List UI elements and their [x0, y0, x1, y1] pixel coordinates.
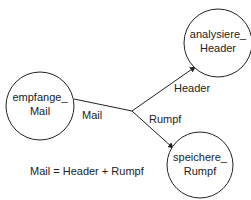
annotation-text: Mail = Header + Rumpf — [30, 165, 145, 177]
node-analysiere-header[interactable]: analysiere_ Header — [184, 9, 251, 77]
data-flow-diagram: Mail Header Rumpf empfange_ Mail analysi… — [0, 0, 251, 200]
node-empfange-mail[interactable]: empfange_ Mail — [6, 72, 74, 140]
node-speichere-rumpf[interactable]: speichere_ Rumpf — [167, 132, 233, 198]
edge-label-header: Header — [174, 82, 210, 94]
edge-label-rumpf: Rumpf — [149, 113, 182, 125]
node-label-line2: Mail — [30, 105, 50, 117]
node-label-line2: Header — [200, 42, 236, 54]
node-label-line1: empfange_ — [12, 91, 68, 103]
node-label-line2: Rumpf — [184, 165, 217, 177]
diagram-svg: Mail Header Rumpf empfange_ Mail analysi… — [0, 0, 251, 200]
edge-label-mail: Mail — [82, 109, 102, 121]
node-label-line1: analysiere_ — [190, 28, 247, 40]
node-label-line1: speichere_ — [173, 151, 228, 163]
